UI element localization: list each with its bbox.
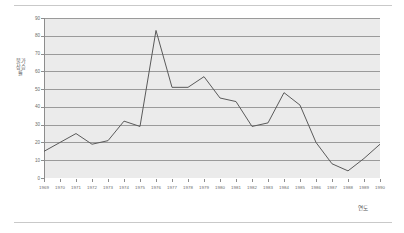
- x-axis-tick-mark: [268, 179, 269, 182]
- y-axis-title: 물가상승률: [15, 58, 27, 77]
- x-axis-tick-mark: [172, 179, 173, 182]
- x-axis-tick-mark: [140, 179, 141, 182]
- y-axis-tick-label: 90: [8, 16, 40, 21]
- x-axis-tick-mark: [348, 179, 349, 182]
- y-axis-tick-label: 20: [8, 140, 40, 145]
- x-axis-tick-mark: [76, 179, 77, 182]
- y-axis-tick-label: 80: [8, 33, 40, 38]
- y-axis-tick-label: 30: [8, 122, 40, 127]
- x-axis-tick-mark: [92, 179, 93, 182]
- y-axis-tick-label: 10: [8, 158, 40, 163]
- x-axis-tick-mark: [124, 179, 125, 182]
- x-axis-tick-mark: [316, 179, 317, 182]
- x-axis-tick-mark: [252, 179, 253, 182]
- x-axis-tick-mark: [332, 179, 333, 182]
- chart-page: 0102030405060708090 19691970197119721973…: [0, 0, 404, 233]
- x-axis-tick-mark: [300, 179, 301, 182]
- y-axis-tick-label: 70: [8, 51, 40, 56]
- x-axis-tick-mark: [364, 179, 365, 182]
- y-axis-tick-label: 50: [8, 87, 40, 92]
- x-axis-tick-mark: [220, 179, 221, 182]
- x-axis-tick-label: 1990: [369, 185, 391, 190]
- x-axis-tick-mark: [44, 179, 45, 182]
- x-axis-tick-mark: [284, 179, 285, 182]
- x-axis-tick-mark: [60, 179, 61, 182]
- x-axis-tick-mark: [204, 179, 205, 182]
- x-axis-tick-mark: [380, 179, 381, 182]
- x-axis-tick-mark: [188, 179, 189, 182]
- y-axis-tick-label: 40: [8, 104, 40, 109]
- x-axis-tick-mark: [108, 179, 109, 182]
- x-axis-tick-mark: [156, 179, 157, 182]
- data-series-line: [44, 18, 380, 178]
- x-axis-tick-mark: [236, 179, 237, 182]
- y-axis-tick-label: 0: [8, 176, 40, 181]
- line-chart: 0102030405060708090 19691970197119721973…: [0, 0, 404, 233]
- x-axis-title: 연도: [358, 205, 369, 212]
